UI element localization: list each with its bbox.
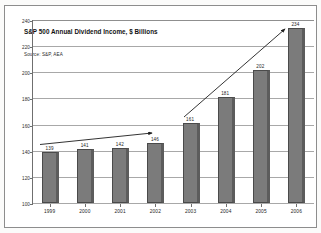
xtick-2001: 2001 [103,204,138,222]
ytick-label-180: 180 [22,97,30,102]
x-axis: 1999 2000 2001 2002 2003 2004 [32,204,314,222]
ytick-label-240: 240 [22,19,30,24]
xtick-label-2001: 2001 [115,209,126,214]
figure-frame: S&P 500 Annual Dividend Income, $ Billio… [4,5,317,228]
ytick-label-220: 220 [22,45,30,50]
bar-slot-2000: 141 [68,20,103,203]
xtick-1999: 1999 [32,204,67,222]
xtick-mark-2006 [296,204,297,207]
bar-value-label-2005: 202 [256,64,264,69]
xtick-2006: 2006 [279,204,314,222]
bar-slot-2005: 202 [244,20,279,203]
ytick-label-160: 160 [22,123,30,128]
bar-2001[interactable]: 142 [112,148,129,203]
chart-screenshot: S&P 500 Annual Dividend Income, $ Billio… [0,0,321,233]
xtick-mark-1999 [50,204,51,207]
bar-2004[interactable]: 181 [218,97,235,203]
xtick-2003: 2003 [173,204,208,222]
xtick-mark-2004 [226,204,227,207]
bar-series: 139 141 142 146 [33,20,314,203]
bar-2002[interactable]: 146 [147,143,164,203]
bar-value-label-2003: 161 [186,117,194,122]
xtick-mark-2000 [85,204,86,207]
xtick-2000: 2000 [67,204,102,222]
xtick-mark-2001 [120,204,121,207]
bar-value-label-2000: 141 [81,143,89,148]
xtick-2004: 2004 [208,204,243,222]
bar-value-label-2004: 181 [221,91,229,96]
xtick-mark-2003 [191,204,192,207]
xtick-label-2002: 2002 [150,209,161,214]
ytick-label-140: 140 [22,149,30,154]
xtick-2005: 2005 [244,204,279,222]
bar-slot-2002: 146 [138,20,173,203]
xtick-label-1999: 1999 [44,209,55,214]
xtick-label-2005: 2005 [256,209,267,214]
bar-2005[interactable]: 202 [253,70,270,203]
bar-2000[interactable]: 141 [77,149,94,203]
xtick-mark-2002 [155,204,156,207]
bar-2006[interactable]: 234 [288,28,305,203]
ytick-label-100: 100 [22,202,30,207]
xtick-label-2000: 2000 [79,209,90,214]
bar-slot-2003: 161 [174,20,209,203]
xtick-label-2004: 2004 [220,209,231,214]
xtick-2002: 2002 [138,204,173,222]
bar-1999[interactable]: 139 [42,152,59,203]
bar-slot-2004: 181 [209,20,244,203]
bar-value-label-2006: 234 [291,22,299,27]
bar-value-label-1999: 139 [46,146,54,151]
ytick-label-200: 200 [22,71,30,76]
bar-value-label-2002: 146 [151,137,159,142]
plot-area: 240 220 200 180 160 140 [32,20,314,204]
bar-slot-2001: 142 [103,20,138,203]
bar-value-label-2001: 142 [116,142,124,147]
bar-slot-2006: 234 [279,20,314,203]
xtick-mark-2005 [261,204,262,207]
xtick-label-2003: 2003 [185,209,196,214]
ytick-label-120: 120 [22,175,30,180]
bar-slot-1999: 139 [33,20,68,203]
bar-2003[interactable]: 161 [183,123,200,203]
xtick-label-2006: 2006 [291,209,302,214]
